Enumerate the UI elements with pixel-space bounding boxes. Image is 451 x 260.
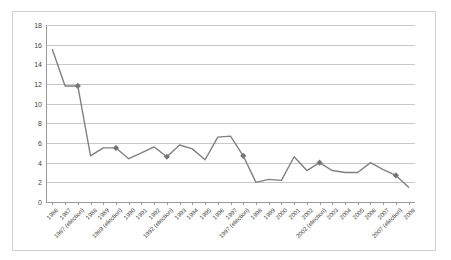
series-markers [75, 83, 399, 179]
line-series [13, 12, 437, 252]
series-polyline [52, 50, 408, 188]
data-point-marker [316, 160, 322, 166]
data-point-marker [75, 83, 81, 89]
chart-figure: 024681012141618 198619871987 (election)1… [12, 11, 436, 251]
